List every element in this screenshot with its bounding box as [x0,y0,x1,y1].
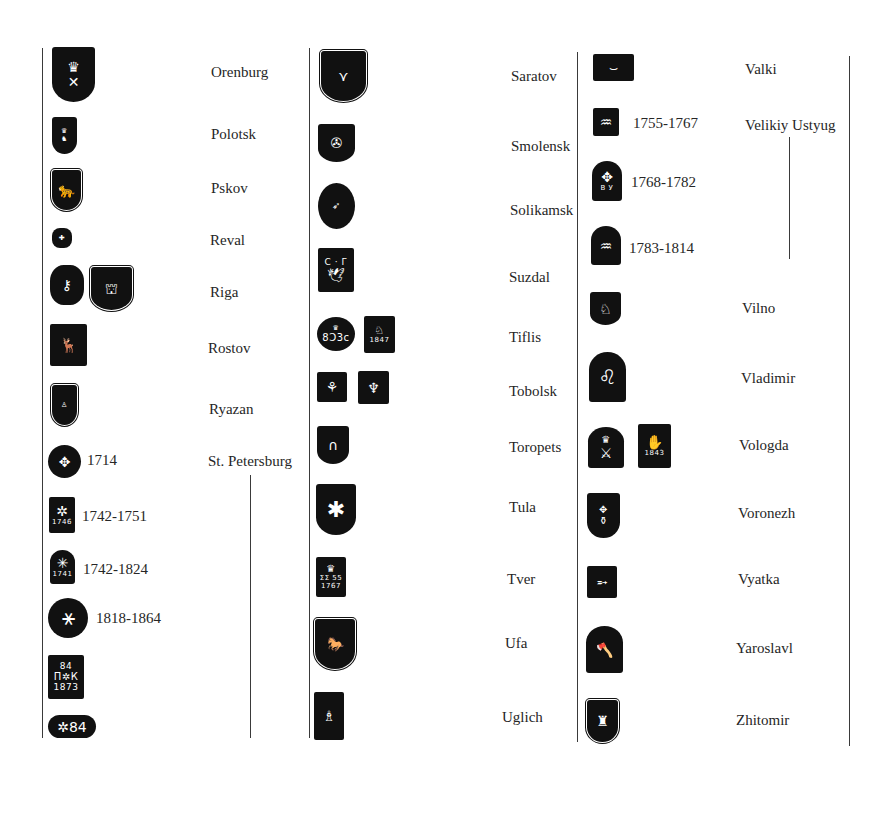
date-label: 1742-1751 [82,508,147,525]
city-gate-icon: ⛫ [105,282,118,296]
anchors-icon: ✳ [57,556,69,570]
lion-icon: ♌ [599,367,617,387]
bear-axe-icon: 🪓 [596,643,613,657]
city-label-solikamsk: Solikamsk [510,202,573,219]
divider-middle-left [309,48,310,738]
divider-middle-right [577,52,578,742]
crown-icon: ♛ [67,60,80,74]
city-label-st-petersburg: St. Petersburg [208,453,292,470]
city-label-uglich: Uglich [502,709,543,726]
velikiy-ustyug-mark-1755: ♒ [593,108,619,136]
plant-icon: ♆ [367,381,380,395]
city-label-vilno: Vilno [742,300,775,317]
mark-year: 1767 [321,583,341,590]
prince-icon: ♗ [323,709,336,723]
tver-mark: ♛ ΣΣ 55 1767 [316,557,346,597]
st-petersburg-mark-1742-1751: ✲1746 [49,497,75,533]
cannon-bird-icon: ✇ [331,136,343,150]
date-label: 1742-1824 [83,561,148,578]
uglich-mark: ♗ [314,692,344,740]
double-eagle-icon: ✥ [59,455,71,469]
bow-deer-icon: ➶ [332,201,341,211]
anchors-icon: ✲ [56,504,68,518]
vologda-mark-hand: ♛⚔ [588,427,624,468]
divider-velikiy-ustyug [789,137,790,259]
date-label: 1714 [87,452,117,469]
city-label-ryazan: Ryazan [209,401,253,418]
city-label-polotsk: Polotsk [211,126,256,143]
st-petersburg-mark-oval-84: ✲84 [48,715,96,738]
hand-icon: ✋ [646,435,663,449]
date-label: 1818-1864 [96,610,161,627]
arch-icon: ∩ [328,438,338,452]
vilno-mark: ♘ [590,292,621,325]
sword-hand-icon: ⚔ [600,446,613,460]
double-eagle-icon: ✥ [601,170,613,184]
mark-text: 84 [60,662,72,671]
mark-year: 1843 [645,450,665,457]
velikiy-ustyug-mark-1783: ♒ [591,226,621,265]
city-label-vladimir: Vladimir [741,370,795,387]
divider-right [849,56,850,746]
cross-icon: ✕ [68,75,80,89]
marten-icon: 🐎 [327,637,344,651]
date-label: 1783-1814 [629,240,694,257]
rider-icon: ♘ [374,325,384,336]
city-label-valki: Valki [745,61,777,78]
vladimir-mark: ♌ [589,352,626,402]
mark-text: П✲К [54,672,79,682]
falcon-icon: 🕊 [327,268,345,282]
saratov-mark: ⋎ [321,51,366,101]
toropets-mark: ∩ [317,426,349,464]
reval-mark: ✚ [52,228,72,248]
smolensk-mark: ✇ [318,124,355,162]
city-label-riga: Riga [210,284,238,301]
city-label-tobolsk: Tobolsk [509,383,557,400]
tula-mark: ✱ [316,484,356,535]
pskov-mark: 🐆 [52,170,81,210]
city-label-tver: Tver [507,571,535,588]
tobolsk-mark-plant: ♆ [358,371,389,404]
tiflis-mark-rect: ♘1847 [364,316,395,353]
mark-year: 1847 [370,337,390,344]
zhitomir-mark: ♜ [587,700,618,742]
cross-icon: ✚ [59,235,65,242]
mark-text: 1873 [54,683,79,692]
mark-text: С · Г [325,258,348,267]
horn-icon: ⌣ [609,61,618,75]
city-label-rostov: Rostov [208,340,251,357]
aquarius-figure-icon: ♒ [600,239,613,253]
city-label-zhitomir: Zhitomir [736,712,789,729]
mark-text: ✲84 [57,720,87,734]
date-label: 1755-1767 [633,115,698,132]
rostov-mark: 🦌 [50,324,87,366]
city-label-tiflis: Tiflis [509,329,541,346]
voronezh-mark: ✥⚱ [587,493,620,538]
st-petersburg-mark-1873: 84 П✲К 1873 [48,655,84,699]
date-label: 1768-1782 [631,174,696,191]
city-label-orenburg: Orenburg [211,64,268,81]
crown-icon: ♛ [601,435,610,445]
divider-st-petersburg [250,475,251,738]
valki-mark: ⌣ [593,54,634,81]
yaroslavl-mark: 🪓 [586,626,623,673]
ufa-mark: 🐎 [315,619,355,669]
city-label-suzdal: Suzdal [509,269,550,286]
city-label-voronezh: Voronezh [738,505,795,522]
eagle-icon: ✥ [599,505,608,515]
horseman-icon: ♞ [61,136,68,143]
prince-figure-icon: ♙ [61,402,68,409]
city-label-vyatka: Vyatka [738,571,780,588]
crossed-keys-icon: ⚷ [62,278,72,292]
tiflis-mark-oval: ♛8Ͻ3c [317,317,355,351]
polotsk-mark: ♛♞ [52,117,77,154]
orenburg-mark: ♛✕ [52,47,95,102]
castle-icon: ♜ [596,714,609,728]
rider-icon: ♘ [599,302,612,316]
leopard-icon: 🐆 [58,183,75,197]
city-label-vologda: Vologda [739,437,789,454]
city-label-tula: Tula [509,499,536,516]
vologda-mark-1843: ✋1843 [638,424,671,468]
divider-left [42,48,43,738]
mark-year: 1741 [53,571,73,578]
